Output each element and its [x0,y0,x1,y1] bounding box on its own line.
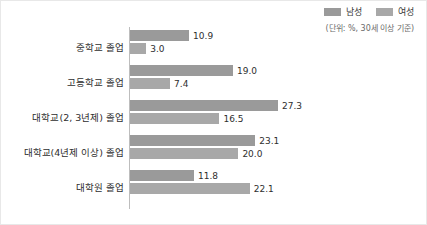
bar-group: 대학원 졸업11.822.1 [1,169,427,204]
category-label: 대학교(2, 3년제) 졸업 [32,110,124,124]
bar [130,30,189,41]
category-label: 고등학교 졸업 [67,75,124,89]
bar [130,100,278,111]
bar [130,135,255,146]
bar-row-male: 19.0 [130,65,257,76]
bar-value-label: 16.5 [223,114,243,124]
bar-group: 대학교(2, 3년제) 졸업27.316.5 [1,99,427,134]
bar-value-label: 19.0 [237,66,257,76]
legend-swatch-female [376,8,393,16]
bar-chart: 남성 여성 (단위: %, 30세 이상 기준) 중학교 졸업10.93.0고등… [0,0,427,225]
bar-row-male: 10.9 [130,30,213,41]
bar [130,65,233,76]
bar [130,148,238,159]
bar-row-female: 16.5 [130,113,243,124]
bar-value-label: 10.9 [193,31,213,41]
bar-row-female: 3.0 [130,43,165,54]
bar [130,78,170,89]
bar-value-label: 11.8 [198,171,218,181]
bar [130,113,219,124]
legend-item-male: 남성 [324,8,362,17]
bar-value-label: 22.1 [254,184,274,194]
legend-swatch-male [324,8,341,16]
bar-group: 대학교(4년제 이상) 졸업23.120.0 [1,134,427,169]
bar-row-male: 23.1 [130,135,279,146]
bar [130,43,146,54]
bar-value-label: 7.4 [174,79,188,89]
bar-group: 고등학교 졸업19.07.4 [1,64,427,99]
category-label: 대학원 졸업 [76,180,124,194]
plot-area: 중학교 졸업10.93.0고등학교 졸업19.07.4대학교(2, 3년제) 졸… [1,27,427,211]
legend-row: 남성 여성 [324,6,414,18]
bar-value-label: 23.1 [259,136,279,146]
category-label: 대학교(4년제 이상) 졸업 [24,145,125,159]
bar-groups: 중학교 졸업10.93.0고등학교 졸업19.07.4대학교(2, 3년제) 졸… [1,29,427,204]
bar [130,183,250,194]
legend-label-male: 남성 [346,8,362,17]
bar-group: 중학교 졸업10.93.0 [1,29,427,64]
bar-value-label: 3.0 [150,44,164,54]
bar-row-male: 11.8 [130,170,218,181]
bar [130,170,194,181]
bar-value-label: 27.3 [282,101,302,111]
bar-row-female: 22.1 [130,183,274,194]
legend-item-female: 여성 [376,8,414,17]
category-label: 중학교 졸업 [76,40,124,54]
bar-row-female: 20.0 [130,148,262,159]
bar-row-female: 7.4 [130,78,188,89]
bar-value-label: 20.0 [242,149,262,159]
bar-row-male: 27.3 [130,100,302,111]
legend-label-female: 여성 [398,8,414,17]
